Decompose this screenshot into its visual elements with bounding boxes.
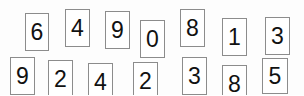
digit-tile[interactable]: 8 — [180, 9, 205, 47]
digit-tile[interactable]: 4 — [88, 63, 113, 95]
digit-glyph: 3 — [188, 65, 201, 88]
captcha-image: 64908139242385 — [0, 0, 304, 95]
digit-glyph: 4 — [94, 71, 107, 94]
digit-tile[interactable]: 3 — [265, 17, 290, 55]
digit-glyph: 9 — [16, 65, 29, 88]
digit-glyph: 1 — [228, 26, 241, 49]
digit-tile[interactable]: 9 — [10, 57, 35, 95]
digit-tile[interactable]: 1 — [222, 18, 247, 56]
digit-glyph: 0 — [146, 28, 159, 51]
digit-tile[interactable]: 2 — [48, 60, 73, 95]
digit-tile[interactable]: 3 — [182, 57, 207, 95]
digit-glyph: 2 — [54, 68, 67, 91]
digit-tile[interactable]: 6 — [25, 13, 49, 51]
digit-glyph: 3 — [271, 25, 284, 48]
digit-glyph: 8 — [186, 17, 199, 40]
digit-glyph: 8 — [228, 73, 241, 96]
digit-tile[interactable]: 8 — [222, 65, 247, 95]
digit-glyph: 2 — [139, 70, 152, 93]
digit-tile[interactable]: 2 — [133, 62, 158, 95]
digit-tile[interactable]: 0 — [140, 20, 165, 58]
digit-glyph: 5 — [269, 65, 282, 88]
digit-glyph: 4 — [71, 17, 84, 40]
digit-glyph: 9 — [111, 19, 124, 42]
digit-tile[interactable]: 9 — [105, 11, 130, 49]
digit-glyph: 6 — [31, 21, 44, 44]
digit-tile[interactable]: 5 — [262, 58, 288, 94]
digit-tile[interactable]: 4 — [65, 9, 90, 47]
